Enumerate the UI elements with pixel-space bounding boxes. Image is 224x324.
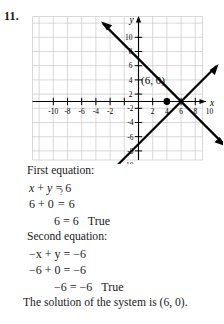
x-tick-label: 6 <box>179 107 183 116</box>
first-substitution-right: 6 <box>69 197 75 211</box>
line2-arrowhead-upper-right <box>210 64 219 75</box>
problem-number: 11. <box>4 9 19 24</box>
y-tick-label: 2 <box>129 90 133 99</box>
y-tick-label: -6 <box>127 133 133 142</box>
line1-arrowhead-lower-right <box>215 137 224 146</box>
y-tick-label: 10 <box>125 33 133 42</box>
first-equation-variable-y: y <box>47 181 52 195</box>
x-tick-label: -4 <box>93 107 99 116</box>
y-tick-label: 4 <box>129 76 133 85</box>
second-equation-heading: Second equation: <box>0 229 223 246</box>
second-substitution: −6 + 0 = −6 <box>0 262 223 279</box>
intersection-point-label: (6, 0) <box>141 74 165 87</box>
question-equals-icon: ?= <box>57 196 66 213</box>
first-result: 6 = 6 <box>54 214 79 228</box>
first-substitution-left: 6 + 0 <box>29 197 54 211</box>
y-tick-label: -4 <box>127 118 133 127</box>
first-equation-variable-x: x <box>29 181 34 195</box>
conclusion-statement: The solution of the system is (6, 0). <box>0 295 223 312</box>
y-axis-label: y <box>128 15 134 25</box>
y-tick-label: -2 <box>127 104 133 113</box>
x-tick-label: 2 <box>151 107 155 116</box>
solution-text-block: First equation: x + y = 6 6 + 0 ?= 6 6 =… <box>0 163 223 312</box>
x-tick-label: -8 <box>64 107 70 116</box>
second-result-label: True <box>92 280 123 294</box>
second-result-line: −6 = −6True <box>0 279 223 296</box>
graph-svg: -10 -8 -6 -4 -2 2 4 6 8 10 2 4 6 8 10 -2… <box>28 12 223 164</box>
y-tick-label: 6 <box>129 61 133 70</box>
first-result-line: 6 = 6True <box>0 213 223 230</box>
intersection-point <box>164 98 171 105</box>
first-equation-heading: First equation: <box>0 163 223 180</box>
x-tick-label: -2 <box>107 107 113 116</box>
first-equation: x + y = 6 <box>0 180 223 197</box>
x-tick-label: -6 <box>79 107 85 116</box>
second-result: −6 = −6 <box>54 280 92 294</box>
question-mark-glyph: ? <box>57 189 66 197</box>
x-tick-label: -10 <box>48 107 58 116</box>
x-axis-label: x <box>209 98 215 108</box>
x-tick-label: 10 <box>206 107 214 116</box>
coordinate-graph: -10 -8 -6 -4 -2 2 4 6 8 10 2 4 6 8 10 -2… <box>28 12 223 164</box>
second-equation: −x + y = −6 <box>0 246 223 263</box>
first-result-label: True <box>79 214 110 228</box>
y-axis-arrowhead <box>136 16 141 23</box>
first-substitution: 6 + 0 ?= 6 <box>0 196 223 213</box>
